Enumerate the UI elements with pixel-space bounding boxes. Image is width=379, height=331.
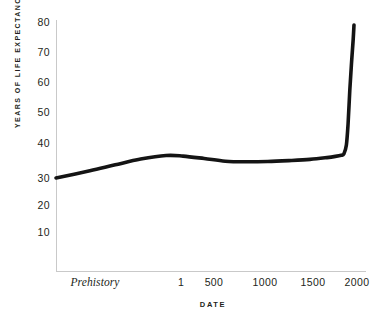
y-tick-label-70: 70 — [38, 47, 50, 58]
y-tick-label-20: 20 — [38, 200, 50, 211]
y-tick-label-60: 60 — [38, 77, 50, 88]
y-tick-label-50: 50 — [38, 107, 50, 118]
x-tick-label-1: 1 — [178, 277, 184, 288]
y-tick-label-80: 80 — [38, 17, 50, 28]
y-tick-label-30: 30 — [38, 173, 50, 184]
x-tick-label-2000: 2000 — [345, 277, 370, 288]
x-tick-label-1000: 1000 — [253, 277, 278, 288]
x-tick-label-1500: 1500 — [301, 277, 326, 288]
life-expectancy-chart: 80 70 60 50 40 30 20 10 YEARS OF LIFE EX… — [0, 0, 379, 331]
y-axis-line — [56, 20, 57, 272]
x-tick-label-prehistory: Prehistory — [70, 277, 119, 289]
y-axis-title: YEARS OF LIFE EXPECTANCY — [14, 0, 21, 128]
x-tick-label-500: 500 — [205, 277, 224, 288]
y-tick-label-10: 10 — [38, 227, 50, 238]
x-axis-title: DATE — [200, 301, 226, 309]
y-tick-label-40: 40 — [38, 138, 50, 149]
life-expectancy-line — [56, 25, 354, 178]
x-axis-line — [56, 271, 366, 272]
